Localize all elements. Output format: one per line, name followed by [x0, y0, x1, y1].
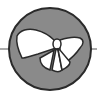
butterfly-body	[53, 39, 61, 49]
butterfly-icon	[0, 0, 97, 98]
butterfly-logo	[0, 0, 97, 98]
